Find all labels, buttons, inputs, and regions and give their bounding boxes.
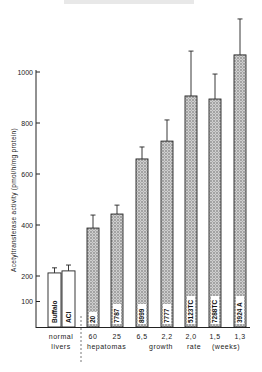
y-ticks: 1002004006008001000 <box>17 69 40 306</box>
bar-label: 5123TC <box>187 300 194 323</box>
bar-label: 20 <box>89 315 96 323</box>
bar-label: Buffalo <box>51 301 58 323</box>
bar-5123tc: 5123TC <box>185 51 197 327</box>
bar-7288tc: 7288TC <box>209 74 221 327</box>
bar-label: 7288TC <box>211 300 218 323</box>
bars: BuffaloACI207787899977775123TC7288TC3924… <box>48 19 246 327</box>
bar-8999: 8999 <box>136 147 148 327</box>
y-tick-label: 800 <box>21 120 33 127</box>
y-tick-label: 1000 <box>17 69 33 76</box>
bar-rect <box>234 55 246 327</box>
weeks-label: (weeks) <box>212 343 240 351</box>
bar-rect <box>161 141 173 327</box>
bar-buffalo: Buffalo <box>48 268 61 327</box>
normal-label: normal <box>49 333 73 340</box>
bar-3924a: 3924 A <box>234 19 246 327</box>
bar-rect <box>185 96 197 327</box>
growth-rate-label: 1,3 <box>234 333 245 340</box>
bar-label: 8999 <box>138 308 145 323</box>
rate-label: rate <box>187 343 201 350</box>
y-tick-label: 100 <box>21 298 33 305</box>
bar-7787: 7787 <box>111 205 123 327</box>
bar-label: 3924 A <box>236 302 243 323</box>
growth-rate-label: 6,5 <box>136 333 147 340</box>
hepatomas-label: hepatomas <box>87 343 126 351</box>
y-axis-title: Acetyltransferase activity (pmol/h/mg pr… <box>10 128 18 272</box>
bar-7777: 7777 <box>161 120 173 327</box>
bar-rect <box>209 99 221 327</box>
growth-rate-label: 2,0 <box>185 333 196 340</box>
growth-rate-label: 1,5 <box>209 333 220 340</box>
growth-label: growth <box>149 343 173 351</box>
bar-rect <box>136 159 148 327</box>
growth-rate-labels: 60256,52,22,01,51,3 <box>89 333 246 340</box>
livers-label: livers <box>51 343 70 350</box>
bar-label: 7787 <box>113 308 120 323</box>
bar-chart: 1002004006008001000 Acetyltransferase ac… <box>0 0 262 372</box>
bar-label: ACI <box>65 312 72 323</box>
bar-label: 7777 <box>163 308 170 323</box>
growth-rate-label: 2,2 <box>161 333 172 340</box>
y-tick-label: 600 <box>21 171 33 178</box>
growth-rate-label: 25 <box>113 333 122 340</box>
y-tick-label: 400 <box>21 222 33 229</box>
bar-aci: ACI <box>62 265 75 327</box>
bar-20: 20 <box>87 215 99 327</box>
growth-rate-label: 60 <box>89 333 98 340</box>
y-tick-label: 200 <box>21 273 33 280</box>
